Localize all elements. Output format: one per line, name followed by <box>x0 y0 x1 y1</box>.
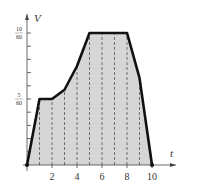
x-tick-label: 6 <box>100 171 105 182</box>
x-tick-label: 8 <box>125 171 130 182</box>
y-tick-numerator: 5 <box>18 92 21 98</box>
velocity-area-chart: 2468105601060Vt <box>0 0 198 186</box>
x-tick-label: 4 <box>75 171 80 182</box>
x-tick-label: 10 <box>147 171 157 182</box>
y-tick-denominator: 60 <box>16 100 22 106</box>
y-axis-title: V <box>34 12 42 24</box>
x-axis-title: t <box>170 147 174 159</box>
y-tick-denominator: 60 <box>16 34 22 40</box>
y-tick-numerator: 10 <box>16 26 22 32</box>
x-tick-label: 2 <box>50 171 55 182</box>
